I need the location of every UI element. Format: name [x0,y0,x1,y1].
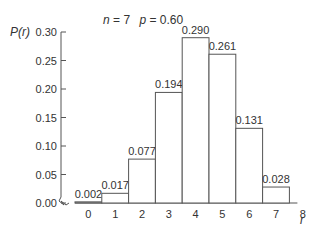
y-axis-label: P(r) [10,25,30,39]
chart-title: n = 7 p = 0.60 [103,13,183,27]
bar [129,159,156,203]
x-tick-label: 4 [193,208,199,220]
bar [75,202,102,203]
x-tick-label: 3 [166,208,172,220]
binomial-bar-chart: n = 7 p = 0.60 P(r) 0.000.050.100.150.20… [0,0,316,237]
bars: 0.0020.0170.0770.1940.2900.2610.1310.028 [75,24,290,203]
x-tick-label: 6 [246,208,252,220]
y-tick-label: 0.25 [36,55,57,67]
y-tick-label: 0.15 [36,112,57,124]
bar-value-label: 0.002 [75,188,103,200]
bar-value-label: 0.194 [155,78,183,90]
x-tick-label: 5 [219,208,225,220]
svg-text:n = 7 p: n = 7 p = 0.60 [103,13,183,27]
y-tick-label: 0.00 [36,197,57,209]
x-tick-label: 0 [85,208,91,220]
bar-value-label: 0.131 [235,114,263,126]
bar [236,128,263,203]
y-tick-label: 0.05 [36,169,57,181]
y-tick-label: 0.10 [36,140,57,152]
y-tick-label: 0.30 [36,26,57,38]
bar-value-label: 0.028 [262,173,290,185]
bar-value-label: 0.261 [209,40,237,52]
bar [209,54,236,203]
y-axis: 0.000.050.100.150.200.250.30 [36,26,66,209]
y-tick-label: 0.20 [36,83,57,95]
axis-break-icon [59,197,69,205]
x-tick-label: 7 [273,208,279,220]
bar-value-label: 0.077 [128,145,156,157]
x-tick-label: 1 [112,208,118,220]
bar-value-label: 0.017 [101,179,129,191]
bar [182,38,209,203]
bar [102,193,129,203]
bar-value-label: 0.290 [182,24,210,36]
bar [263,187,290,203]
bar [155,92,182,203]
x-tick-label: 2 [139,208,145,220]
